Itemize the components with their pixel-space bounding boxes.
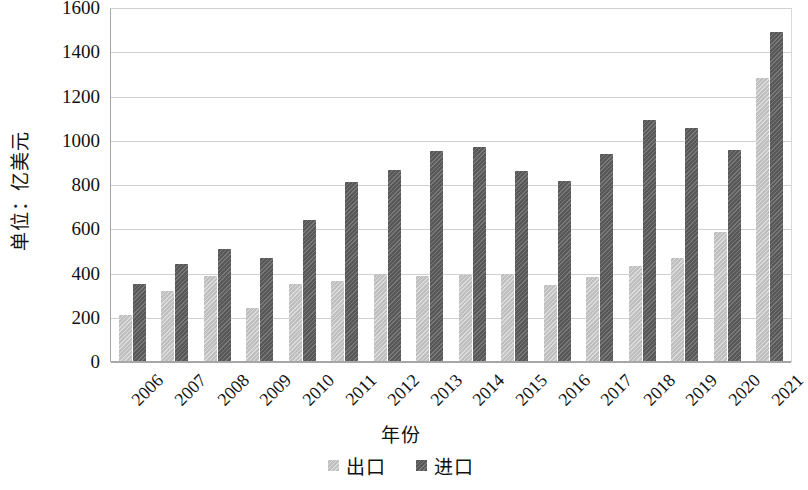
bar-import-2007 <box>175 264 188 361</box>
legend-item-import[interactable]: 进口 <box>416 452 474 479</box>
x-axis-tick-label: 2016 <box>554 370 594 410</box>
bar-group <box>239 9 282 361</box>
y-axis-tick-label: 1400 <box>62 41 100 63</box>
y-axis-tick-label: 1600 <box>62 0 100 19</box>
chart-legend: 出口进口 <box>0 452 801 479</box>
x-axis-tick-label: 2007 <box>170 370 210 410</box>
bar-export-2009 <box>246 308 259 361</box>
x-axis-tick-label: 2011 <box>341 370 381 410</box>
bar-import-2014 <box>473 147 486 361</box>
legend-swatch-icon <box>328 460 339 471</box>
bar-group <box>494 9 537 361</box>
y-axis-tick-label: 1000 <box>62 130 100 152</box>
bar-import-2021 <box>770 32 783 361</box>
legend-label: 进口 <box>434 452 474 479</box>
x-axis-tick-label: 2006 <box>128 370 168 410</box>
x-axis-tick-label: 2015 <box>511 370 551 410</box>
bar-group <box>621 9 664 361</box>
x-axis-tick-label: 2010 <box>298 370 338 410</box>
bar-import-2013 <box>430 151 443 361</box>
x-axis-tick-label: 2014 <box>469 370 509 410</box>
x-axis-tick-label: 2020 <box>725 370 765 410</box>
bar-group <box>749 9 792 361</box>
bar-export-2014 <box>459 275 472 361</box>
bar-export-2020 <box>714 232 727 361</box>
bar-import-2015 <box>515 171 528 361</box>
x-axis-tick-label: 2018 <box>639 370 679 410</box>
x-axis-tick-label: 2012 <box>384 370 424 410</box>
bar-export-2017 <box>586 277 599 361</box>
bar-group <box>281 9 324 361</box>
bar-import-2010 <box>303 220 316 361</box>
bar-group <box>706 9 749 361</box>
legend-label: 出口 <box>346 452 386 479</box>
bar-group <box>196 9 239 361</box>
x-axis-title: 年份 <box>0 420 801 447</box>
bar-import-2018 <box>643 120 656 361</box>
bar-export-2006 <box>119 315 132 361</box>
y-axis-tick-label: 600 <box>72 218 101 240</box>
bar-export-2011 <box>331 281 344 361</box>
bar-group <box>111 9 154 361</box>
bars-layer <box>111 9 791 361</box>
x-axis-tick-label: 2013 <box>426 370 466 410</box>
x-axis-tick-label: 2009 <box>256 370 296 410</box>
y-axis-tick-label: 1200 <box>62 86 100 108</box>
x-axis-tick-label: 2021 <box>767 370 807 410</box>
bar-export-2021 <box>756 78 769 361</box>
bar-group <box>536 9 579 361</box>
bar-import-2006 <box>133 284 146 361</box>
y-axis-title-text: 单位：亿美元 <box>5 130 32 250</box>
x-axis-tick-label: 2019 <box>682 370 722 410</box>
x-axis-tick-label: 2017 <box>597 370 637 410</box>
bar-import-2012 <box>388 170 401 361</box>
bar-export-2013 <box>416 276 429 361</box>
bar-export-2015 <box>501 274 514 361</box>
x-axis-tick-label: 2008 <box>213 370 253 410</box>
y-axis-title: 单位：亿美元 <box>0 0 36 380</box>
y-axis-tick-label: 400 <box>72 263 101 285</box>
bar-import-2016 <box>558 181 571 361</box>
bar-group <box>451 9 494 361</box>
bar-import-2008 <box>218 249 231 361</box>
bar-import-2011 <box>345 182 358 361</box>
y-axis-tick-label: 800 <box>72 174 101 196</box>
y-axis-tick-labels: 16001400120010008006004002000 <box>36 0 110 380</box>
bar-export-2016 <box>544 285 557 361</box>
bar-group <box>579 9 622 361</box>
bar-export-2008 <box>204 276 217 361</box>
bar-group <box>366 9 409 361</box>
legend-item-export[interactable]: 出口 <box>328 452 386 479</box>
y-axis-tick-label: 200 <box>72 307 101 329</box>
bar-export-2010 <box>289 284 302 361</box>
bar-export-2019 <box>671 258 684 361</box>
x-axis-tick-labels: 2006200720082009201020112012201320142015… <box>110 362 792 422</box>
bar-export-2018 <box>629 266 642 361</box>
bar-export-2007 <box>161 291 174 361</box>
legend-swatch-icon <box>416 460 427 471</box>
bar-group <box>409 9 452 361</box>
bar-group <box>324 9 367 361</box>
y-axis-tick-label: 0 <box>91 351 101 373</box>
bar-import-2009 <box>260 258 273 361</box>
bar-import-2020 <box>728 150 741 361</box>
bar-import-2019 <box>685 128 698 361</box>
bar-group <box>154 9 197 361</box>
bar-group <box>664 9 707 361</box>
plot-area <box>110 8 792 362</box>
bar-import-2017 <box>600 154 613 361</box>
bar-export-2012 <box>374 274 387 361</box>
